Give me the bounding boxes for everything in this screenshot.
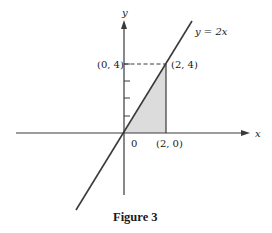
line-y-equals-2x	[76, 21, 192, 210]
y-axis-label: y	[121, 7, 128, 18]
figure-caption: Figure 3	[113, 210, 158, 224]
line-label: y = 2x	[194, 26, 228, 37]
figure-canvas: y x y = 2x (0, 4) (2, 4) (2, 0) 0 Figure…	[0, 0, 272, 233]
point-label-2-4: (2, 4)	[171, 59, 198, 70]
y-ticks	[124, 64, 130, 116]
y-axis-arrow-icon	[121, 20, 127, 29]
x-axis-arrow-icon	[241, 130, 250, 136]
point-label-2-0: (2, 0)	[156, 138, 183, 149]
origin-label: 0	[131, 138, 137, 149]
x-axis-label: x	[255, 128, 261, 139]
point-label-0-4: (0, 4)	[97, 59, 124, 70]
